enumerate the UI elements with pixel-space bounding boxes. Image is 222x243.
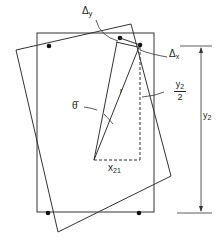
arrow-down-icon bbox=[199, 206, 203, 212]
theta-label: θ̄ bbox=[72, 101, 78, 111]
half-y2-leader bbox=[142, 92, 164, 97]
half-y2-label: y2 2 bbox=[174, 80, 186, 102]
original-radius-line bbox=[94, 42, 117, 160]
arrow-up-icon bbox=[199, 47, 203, 53]
rotated-rectangle bbox=[16, 24, 171, 232]
original-rectangle bbox=[37, 33, 154, 212]
radius-label: r bbox=[120, 87, 122, 94]
bottom-right-bar-dot bbox=[137, 211, 142, 216]
diagram-canvas bbox=[0, 0, 222, 243]
bottom-left-bar-dot bbox=[46, 211, 51, 216]
delta-y-leader bbox=[96, 20, 118, 41]
delta-y-label: Δy bbox=[82, 6, 92, 17]
top-left-bar-dot bbox=[47, 44, 52, 49]
x21-label: x21 bbox=[108, 163, 121, 174]
delta-x-label: Δx bbox=[169, 49, 179, 60]
y2-label: y2 bbox=[203, 111, 211, 121]
radius-line-r bbox=[94, 47, 139, 160]
theta-leader bbox=[84, 107, 97, 110]
